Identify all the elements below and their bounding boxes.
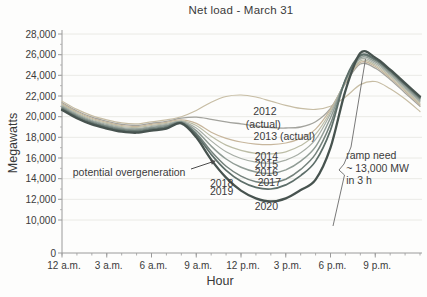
ramp-label-line2: ~ 13,000 MW (346, 162, 409, 174)
y-tick-label: 12,000 (25, 194, 56, 205)
x-tick-label: 12 p.m. (226, 260, 259, 271)
y-tick-label: 20,000 (25, 111, 56, 122)
y-tick-label: 0 (50, 248, 56, 259)
y-axis-title: Megawatts (6, 83, 22, 203)
ramp-label-line1: ramp need (346, 149, 396, 161)
x-tick-label: 6 p.m. (319, 260, 347, 271)
series-line-2012 (62, 81, 420, 124)
y-tick-label: 24,000 (25, 70, 56, 81)
y-tick-label: 16,000 (25, 153, 56, 164)
series-label-2013-actual-: 2013 (actual) (254, 130, 315, 142)
overgeneration-arrow (191, 162, 212, 169)
ramp-label-line3: in 3 h (346, 174, 372, 186)
y-tick-label: 28,000 (25, 29, 56, 40)
series-label-2019: 2019 (210, 185, 234, 197)
series-line-2015 (62, 60, 420, 154)
y-tick-label: 22,000 (25, 91, 56, 102)
net-load-chart: 28,00026,00024,00022,00020,00018,00016,0… (0, 0, 427, 297)
series-label-2012: 2012 (253, 105, 277, 117)
x-tick-label: 3 p.m. (274, 260, 302, 271)
series-label-2017: 2017 (258, 176, 282, 188)
y-tick-label: 14,000 (25, 173, 56, 184)
series-label--actual-: (actual) (246, 118, 281, 130)
x-tick-label: 6 a.m. (140, 260, 168, 271)
series-line-2014 (62, 62, 420, 145)
x-tick-label: 12 a.m. (47, 260, 80, 271)
y-tick-label: 18,000 (25, 132, 56, 143)
series-line-2016 (62, 58, 420, 163)
x-axis-title: Hour (160, 274, 280, 288)
y-tick-label: 10,000 (25, 215, 56, 226)
series-label-2020: 2020 (255, 200, 279, 212)
x-tick-label: 9 a.m. (184, 260, 212, 271)
x-tick-label: 3 a.m. (95, 260, 123, 271)
x-tick-label: 9 p.m. (363, 260, 391, 271)
overgeneration-label: potential overgeneration (73, 166, 186, 178)
plot-area: 28,00026,00024,00022,00020,00018,00016,0… (0, 0, 427, 297)
chart-title: Net load - March 31 (62, 4, 420, 16)
y-tick-label: 26,000 (25, 49, 56, 60)
